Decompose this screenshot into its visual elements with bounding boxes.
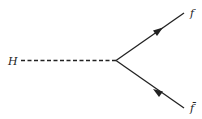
antifermion-line — [116, 61, 184, 109]
fermion-arrow-icon — [153, 28, 163, 37]
fermion-line — [116, 13, 184, 61]
fermion-label: f — [189, 7, 196, 20]
higgs-label: H — [7, 55, 18, 68]
feynman-diagram: H f f̄ — [0, 0, 202, 119]
antifermion-label: f̄ — [189, 102, 197, 115]
